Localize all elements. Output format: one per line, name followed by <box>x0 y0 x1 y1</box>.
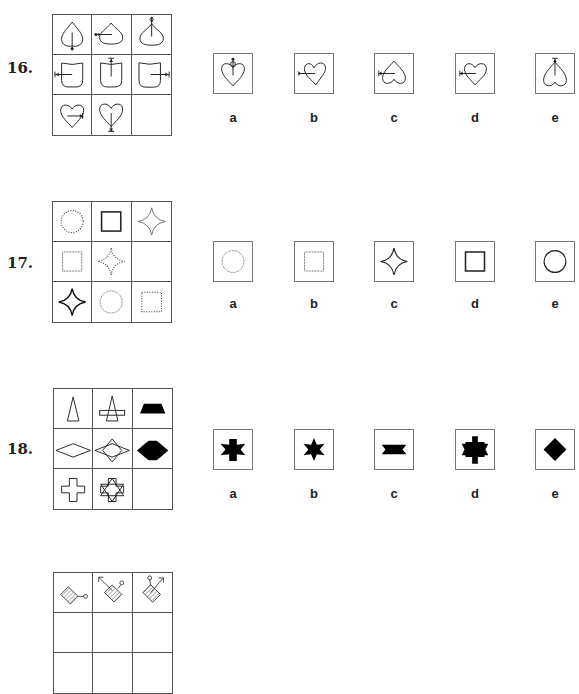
option-16-a[interactable] <box>213 53 253 94</box>
option-17-b-label: b <box>294 296 334 311</box>
option-17-e-label: e <box>535 296 575 311</box>
shield-arrow-right-icon <box>132 55 171 94</box>
grid-cell-hidden <box>93 613 132 653</box>
star4-dotted-icon <box>92 242 130 281</box>
option-18-d-label: d <box>455 486 495 501</box>
grid-cell-hatched-square-arrow-up-left <box>93 573 132 613</box>
bowtie-filled-icon <box>375 430 413 469</box>
grid-cell-heart-arrow-down <box>92 95 131 135</box>
grid-cell-star4-thin <box>132 202 171 242</box>
square-fine-dotted-icon <box>53 242 91 281</box>
grid-cell-square-solid <box>92 202 131 242</box>
grid-cell-cross-over-star6 <box>93 469 132 509</box>
inverted-heart-arrow-left-icon <box>375 54 413 93</box>
grid-cell-hidden <box>133 613 172 653</box>
option-18-b-label: b <box>294 486 334 501</box>
circle-fine-dotted-icon <box>214 242 252 281</box>
option-18-e[interactable] <box>535 429 575 470</box>
circle-solid-icon <box>536 242 574 281</box>
shield-arrow-up-icon <box>92 55 130 94</box>
question-number-16: 16. <box>7 59 33 77</box>
grid-cell-hidden <box>93 653 132 693</box>
option-17-d[interactable] <box>455 241 495 282</box>
grid-cell-hidden <box>54 653 93 693</box>
grid-cell-heart-arrow-right <box>53 95 92 135</box>
grid-cell-empty <box>133 469 172 509</box>
rhombus-over-rhombus-icon <box>93 429 131 468</box>
option-17-d-label: d <box>455 296 495 311</box>
spade-arrow-up-icon <box>132 15 171 54</box>
heart-arrow-down-icon <box>92 95 130 135</box>
question-18-grid <box>53 388 173 510</box>
heart-arrow-up-circle-icon <box>214 54 252 93</box>
star4-solid-icon <box>375 242 413 281</box>
option-18-c[interactable] <box>374 429 414 470</box>
heart-arrow-right-icon <box>53 95 91 135</box>
option-16-d-label: d <box>455 110 495 125</box>
grid-cell-square-dotted <box>132 282 171 322</box>
square-dotted-icon <box>132 282 171 322</box>
option-18-e-label: e <box>535 486 575 501</box>
spade-arrow-left-icon <box>92 15 130 54</box>
grid-cell-spade-arrow-up <box>132 15 171 55</box>
grid-cell-circle-dotted <box>53 202 92 242</box>
grid-cell-hidden <box>54 613 93 653</box>
diamond-filled-icon <box>536 430 574 469</box>
grid-cell-triangle-outline <box>54 389 93 429</box>
spade-arrow-down-icon <box>53 15 91 54</box>
square-solid-icon <box>92 202 130 241</box>
question-19-grid <box>53 572 173 694</box>
cross-star-filled-icon <box>214 430 252 469</box>
option-16-b[interactable] <box>294 53 334 94</box>
heart-arrow-left-icon <box>456 54 494 93</box>
grid-cell-empty <box>132 242 171 282</box>
circle-dotted-icon <box>53 202 91 241</box>
trapezoid-filled-icon <box>133 389 172 428</box>
heart-arrow-left-tilted-icon <box>295 54 333 93</box>
option-17-b[interactable] <box>294 241 334 282</box>
option-18-c-label: c <box>374 486 414 501</box>
cross-over-star6-icon <box>93 469 131 509</box>
option-17-a-label: a <box>213 296 253 311</box>
grid-cell-rhombus-outline <box>54 429 93 469</box>
option-16-d[interactable] <box>455 53 495 94</box>
question-number-18: 18. <box>7 440 33 458</box>
option-18-d[interactable] <box>455 429 495 470</box>
option-17-c[interactable] <box>374 241 414 282</box>
option-16-c-label: c <box>374 110 414 125</box>
question-number-17: 17. <box>7 254 33 272</box>
question-17-grid <box>52 201 172 323</box>
rhombus-outline-icon <box>54 429 92 468</box>
grid-cell-spade-arrow-down <box>53 15 92 55</box>
option-18-b[interactable] <box>294 429 334 470</box>
grid-cell-shield-arrow-left <box>53 55 92 95</box>
grid-cell-shield-arrow-up <box>92 55 131 95</box>
grid-cell-trapezoid-filled <box>133 389 172 429</box>
star6-filled-icon <box>295 430 333 469</box>
option-16-a-label: a <box>213 110 253 125</box>
square-solid-thick-icon <box>456 242 494 281</box>
question-16-grid <box>52 14 172 136</box>
grid-cell-hatched-square-arrow-up-right <box>133 573 172 613</box>
option-16-b-label: b <box>294 110 334 125</box>
hatched-square-knob-right-icon <box>54 573 92 612</box>
grid-cell-empty <box>132 95 171 135</box>
hatched-square-arrow-up-left-icon <box>93 573 131 612</box>
option-18-a[interactable] <box>213 429 253 470</box>
grid-cell-hidden <box>133 653 172 693</box>
hatched-square-arrow-up-right-icon <box>133 573 172 612</box>
inverted-heart-arrow-up-icon <box>536 54 574 93</box>
option-16-c[interactable] <box>374 53 414 94</box>
grid-cell-triangle-over-rectangle <box>93 389 132 429</box>
square-fine-dotted-icon <box>295 242 333 281</box>
option-17-a[interactable] <box>213 241 253 282</box>
cross-star-tall-filled-icon <box>456 430 494 469</box>
option-17-e[interactable] <box>535 241 575 282</box>
grid-cell-square-fine-dotted <box>53 242 92 282</box>
star4-thin-icon <box>132 202 171 241</box>
option-16-e[interactable] <box>535 53 575 94</box>
lens-filled-icon <box>133 429 172 468</box>
grid-cell-star4-thick <box>53 282 92 322</box>
cross-outline-icon <box>54 469 92 509</box>
grid-cell-lens-filled <box>133 429 172 469</box>
